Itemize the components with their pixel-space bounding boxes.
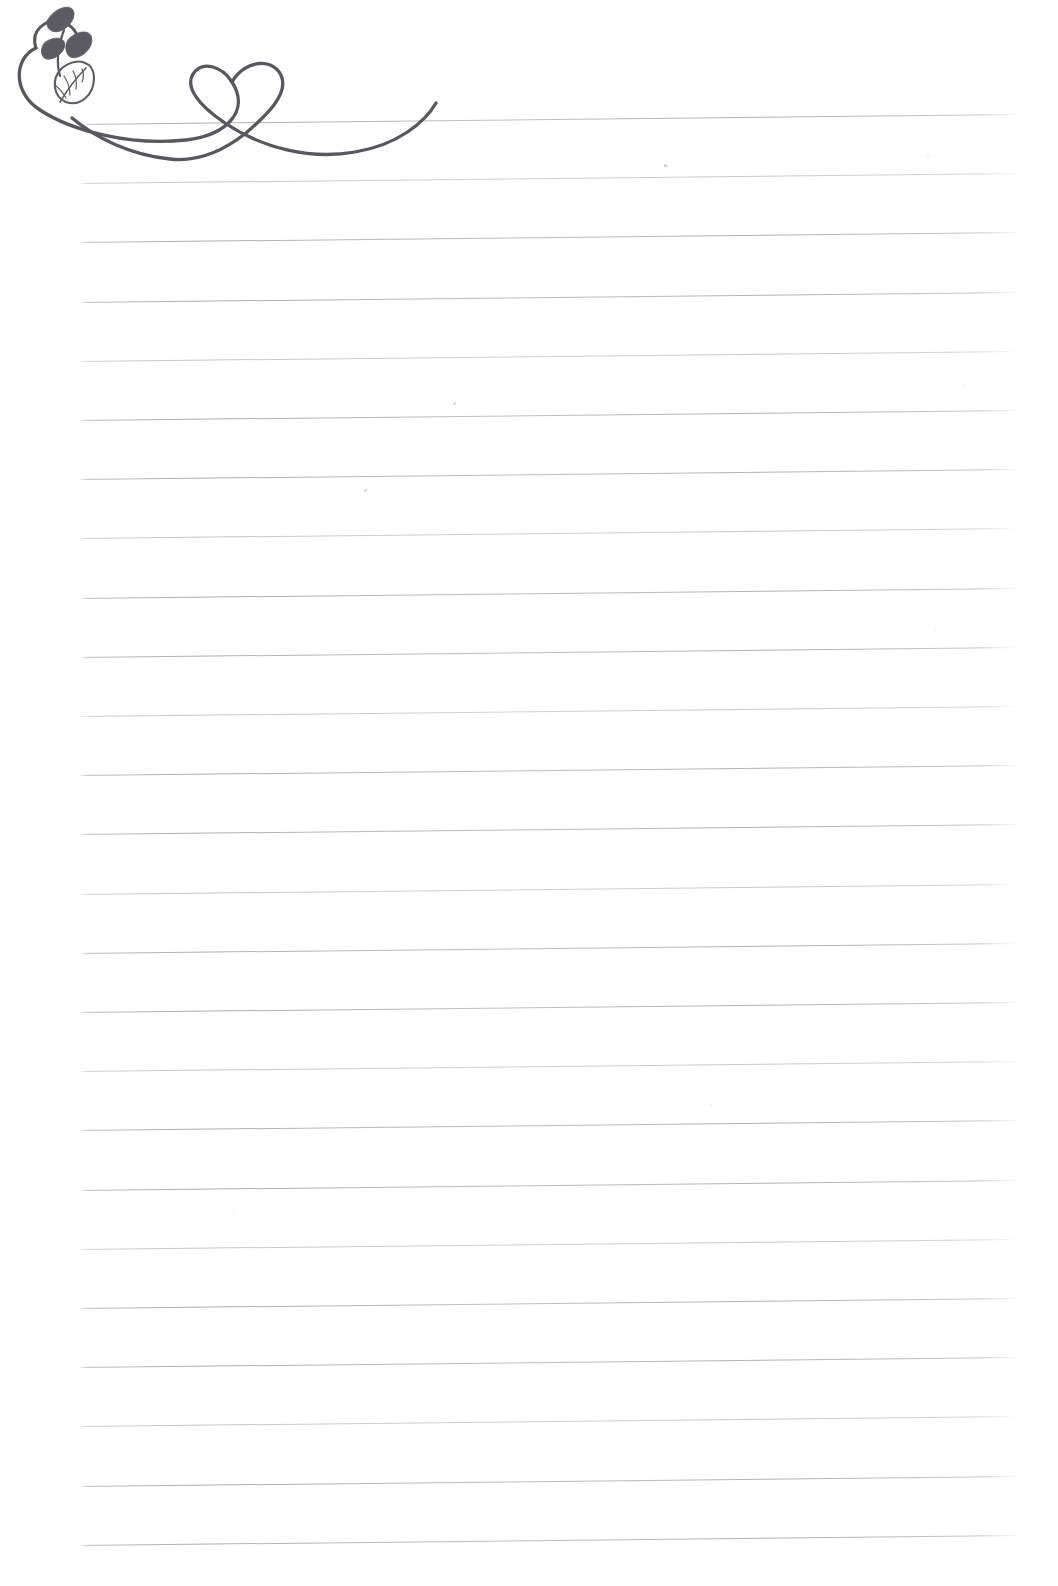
rule-line [78,1239,1018,1250]
rule-line [78,1476,1018,1487]
scan-speck [963,385,965,387]
rule-line [78,469,1018,480]
rule-line [78,232,1018,243]
rule-line [78,1416,1018,1427]
rule-line [78,943,1018,954]
rule-line [78,292,1018,303]
bottom-edge-mark [505,1570,569,1584]
leaf-small-left [40,36,65,61]
rule-line [78,1535,1018,1546]
scan-speck [453,402,456,405]
rule-line [78,1002,1018,1013]
rule-line [78,647,1018,658]
notebook-page [0,0,1058,1586]
rule-line [78,884,1018,895]
rule-line [78,1357,1018,1368]
rule-line [78,824,1018,835]
scan-speck [710,1104,712,1106]
scan-speck [364,489,367,492]
scan-speck [664,164,667,167]
scan-speck [232,1210,234,1212]
rule-line [78,765,1018,776]
heart [72,63,283,159]
scan-speck [934,628,936,630]
rule-line [78,410,1018,421]
rule-line [78,706,1018,717]
rule-line [78,528,1018,539]
rule-line [78,1298,1018,1309]
rule-line [78,351,1018,362]
ruled-lines-layer [0,0,1058,1586]
rule-line [78,1061,1018,1072]
rule-line [78,1180,1018,1191]
vine-heart-flourish-icon [0,0,470,180]
leaf-large-veined [55,62,94,103]
rule-line [78,588,1018,599]
leaf-small-right [64,31,93,58]
rule-line [78,1120,1018,1131]
